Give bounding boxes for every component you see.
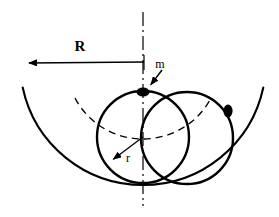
- diagram-svg: R m r: [0, 0, 279, 217]
- label-bowl-radius: R: [75, 38, 86, 54]
- physics-diagram-canvas: R m r: [0, 0, 279, 217]
- mass-dot-right: [223, 105, 232, 118]
- label-circle-radius: r: [126, 151, 130, 165]
- mass-dot-top: [137, 87, 150, 96]
- label-point-mass: m: [155, 57, 165, 71]
- m-pointer-arrow: [151, 70, 162, 85]
- rolling-circle-right: [141, 92, 233, 184]
- R-dimension-arrow: [29, 62, 144, 63]
